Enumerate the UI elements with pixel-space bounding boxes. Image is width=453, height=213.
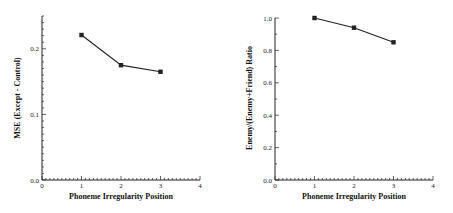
y-tick-label: 0.8 xyxy=(263,47,272,55)
left-series xyxy=(79,33,162,74)
y-tick-label: 1.0 xyxy=(263,15,272,23)
y-tick-label: 0.0 xyxy=(263,177,272,185)
x-tick-label: 1 xyxy=(80,182,84,190)
right-axes xyxy=(275,18,433,180)
x-tick-label: 3 xyxy=(392,182,396,190)
left-chart: 012340.00.10.2 Phoneme Irregularity Posi… xyxy=(13,16,202,201)
left-y-axis-title: MSE (Except - Control) xyxy=(13,57,22,139)
data-point-marker xyxy=(79,33,83,37)
right-series xyxy=(312,16,395,45)
data-point-marker xyxy=(158,70,162,74)
x-tick-label: 2 xyxy=(352,182,356,190)
x-tick-label: 4 xyxy=(431,182,435,190)
data-point-marker xyxy=(312,16,316,20)
y-tick-label: 0.2 xyxy=(263,144,272,152)
y-tick-label: 0.0 xyxy=(30,177,39,185)
left-x-axis-title: Phoneme Irregularity Position xyxy=(69,192,173,201)
y-tick-label: 0.4 xyxy=(263,112,272,120)
x-tick-label: 3 xyxy=(159,182,163,190)
data-point-marker xyxy=(352,26,356,30)
right-chart: 012340.00.20.40.60.81.0 Phoneme Irregula… xyxy=(245,15,435,202)
x-tick-label: 2 xyxy=(119,182,123,190)
left-ticks: 012340.00.10.2 xyxy=(30,16,202,190)
y-tick-label: 0.6 xyxy=(263,79,272,87)
figure: 012340.00.10.2 Phoneme Irregularity Posi… xyxy=(0,0,453,213)
series-line xyxy=(315,18,394,42)
x-tick-label: 1 xyxy=(313,182,317,190)
x-tick-label: 0 xyxy=(273,182,277,190)
right-ticks: 012340.00.20.40.60.81.0 xyxy=(263,15,435,191)
data-point-marker xyxy=(391,40,395,44)
x-tick-label: 0 xyxy=(40,182,44,190)
right-y-axis-title: Enemy/(Enemy+Friend) Ratio xyxy=(245,46,254,150)
data-point-marker xyxy=(119,63,123,67)
x-tick-label: 4 xyxy=(198,182,202,190)
left-axes xyxy=(42,16,200,180)
right-x-axis-title: Phoneme Irregularity Position xyxy=(302,192,406,201)
y-tick-label: 0.1 xyxy=(30,111,39,119)
y-tick-label: 0.2 xyxy=(30,45,39,53)
